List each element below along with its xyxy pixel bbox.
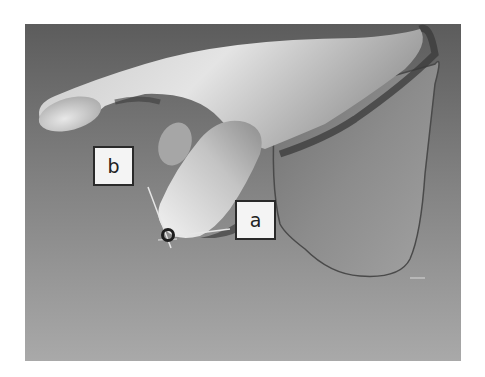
label-a-text: a	[250, 209, 262, 231]
label-a: a	[235, 200, 276, 240]
scapula-figure: b a	[25, 24, 461, 361]
label-b-text: b	[107, 155, 119, 177]
label-b: b	[93, 146, 134, 186]
scapula-render	[25, 24, 461, 361]
